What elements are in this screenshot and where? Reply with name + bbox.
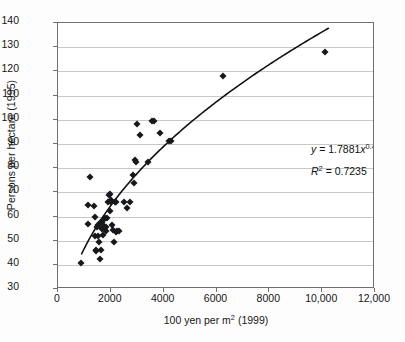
y-tick-label-text: 100 [1,111,19,123]
y-tick-mark-120 [53,70,57,71]
regression-equation-annotation: y = 1.7881x0.4702 [311,143,374,155]
data-point [134,120,141,127]
x-tick-mark-10000 [321,288,322,292]
y-tick-label-text: 60 [7,208,19,220]
trendline-layer [58,23,373,287]
gridline-y-110 [58,96,373,97]
y-tick-mark-50 [53,240,57,241]
gridline-y-40 [58,265,373,266]
data-point [321,48,328,55]
gridline-y-70 [58,192,373,193]
y-tick-label-text: 40 [7,256,19,268]
data-point [96,238,103,245]
x-tick-mark-0 [57,288,58,292]
y-tick-label-text: 50 [7,232,19,244]
y-tick-label-text: 130 [1,38,19,50]
y-tick-label-text: 90 [7,135,19,147]
y-tick-mark-130 [53,46,57,47]
x-tick-label-6000: 6000 [204,292,227,304]
y-tick-label-text: 80 [7,159,19,171]
y-tick-mark-60 [53,216,57,217]
x-tick-mark-4000 [163,288,164,292]
data-point [97,247,104,254]
data-point [130,179,137,186]
data-point [86,173,93,180]
y-tick-mark-140 [53,22,57,23]
x-tick-mark-12000 [374,288,375,292]
gridline-y-120 [58,71,373,72]
data-point [156,129,163,136]
x-tick-label-4000: 4000 [151,292,174,304]
data-point [144,158,151,165]
data-point [112,199,119,206]
plot-area: y = 1.7881x0.4702 R2 = 0.7235 [57,22,374,288]
x-tick-label-12000: 12,000 [358,292,390,304]
equation-equals: = [316,143,328,155]
equation-exponent: 0.4702 [366,142,374,151]
scatter-chart-figure: Persons per hectare (1995) y = 1.7881x0.… [0,0,405,342]
data-point [97,255,104,262]
gridline-y-50 [58,241,373,242]
y-tick-label-text: 110 [2,87,19,99]
gridline-y-130 [58,47,373,48]
r2-r: R [311,165,319,177]
y-tick-mark-80 [53,167,57,168]
data-point [84,221,91,228]
x-tick-label-2000: 2000 [98,292,121,304]
x-tick-label-0: 0 [54,292,60,304]
data-point [91,214,98,221]
x-tick-label-8000: 8000 [257,292,280,304]
x-axis-title: 100 yen per m2 (1999) [57,314,375,326]
equation-coefficient: 1.7881 [328,143,360,155]
data-point [123,205,130,212]
x-tick-mark-2000 [110,288,111,292]
y-tick-mark-90 [53,143,57,144]
r-squared-annotation: R2 = 0.7235 [311,165,367,177]
data-point [137,132,144,139]
trendline-power-curve [82,28,329,254]
data-point [129,171,136,178]
y-tick-label-text: 70 [7,183,19,195]
data-point [110,238,117,245]
y-tick-mark-100 [53,119,57,120]
data-point [107,207,114,214]
y-tick-mark-70 [53,191,57,192]
y-tick-mark-110 [53,95,57,96]
x-tick-mark-8000 [268,288,269,292]
r2-value: 0.7235 [335,165,367,177]
y-tick-mark-40 [53,264,57,265]
y-tick-label-text: 30 [7,280,19,292]
gridline-y-100 [58,120,373,121]
data-point [220,72,227,79]
y-tick-label-text: 120 [1,62,19,74]
r2-equals: = [323,165,335,177]
x-axis-title-suffix: (1999) [235,314,268,326]
y-tick-label-text: 140 [1,14,19,26]
data-point [90,203,97,210]
x-axis-title-prefix: 100 yen per m [164,314,231,326]
x-tick-label-10000: 10,000 [305,292,337,304]
x-tick-mark-6000 [216,288,217,292]
